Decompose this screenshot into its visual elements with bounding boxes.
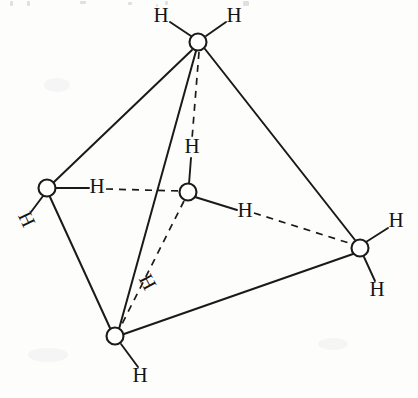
- scan-artifact-speck: [80, 1, 86, 4]
- scan-artifact-speck: [243, 1, 249, 6]
- scan-artifact-speck: [27, 1, 30, 6]
- bond-edge-top-left: [54, 50, 192, 182]
- scan-artifact-smudge: [28, 348, 68, 362]
- molecular-diagram: H H H H H H H H H H: [0, 0, 418, 398]
- scan-artifact-smudge: [44, 78, 70, 92]
- hbond-left-h-to-center: [106, 189, 180, 191]
- bond-center-to-h-top: [189, 158, 191, 184]
- h-label-center-top: H: [184, 134, 199, 158]
- h-label-left-inner: H: [89, 174, 104, 198]
- bond-top-to-h-right: [206, 22, 226, 36]
- scan-artifact-speck: [128, 2, 132, 5]
- hbond-center-to-bottom: [119, 201, 184, 330]
- bond-top-to-h-left: [170, 22, 191, 36]
- hydrogen-bonds-solid: [31, 22, 388, 367]
- atom-center[interactable]: [180, 184, 197, 201]
- atom-bottom[interactable]: [107, 328, 124, 345]
- h-label-right-lower: H: [369, 277, 384, 301]
- bond-edge-left-bottom: [50, 197, 110, 328]
- atom-right[interactable]: [352, 240, 369, 257]
- h-label-bottom: H: [132, 363, 147, 387]
- h-label-center-lower: H: [135, 270, 161, 293]
- bond-center-to-h-right: [195, 197, 237, 210]
- atom-vertices: [39, 34, 369, 345]
- atom-left[interactable]: [39, 180, 56, 197]
- atom-top[interactable]: [190, 34, 207, 51]
- h-label-right-upper: H: [388, 208, 403, 232]
- bond-edge-top-right: [205, 49, 355, 240]
- scan-artifact-speck: [156, 4, 158, 7]
- scan-artifact-smudge: [318, 338, 348, 350]
- hydrogen-labels: H H H H H H H H H H: [14, 3, 403, 387]
- scan-artifact-speck: [165, 1, 168, 5]
- h-label-center-right: H: [237, 198, 252, 222]
- h-label-top-right: H: [226, 3, 241, 27]
- scan-artifact-speck: [10, 1, 13, 6]
- bond-edge-bottom-right: [124, 254, 353, 334]
- molecule-svg: H H H H H H H H H H: [0, 0, 418, 398]
- h-label-left-outer: H: [14, 208, 40, 230]
- bond-right-to-h-upper: [366, 228, 388, 242]
